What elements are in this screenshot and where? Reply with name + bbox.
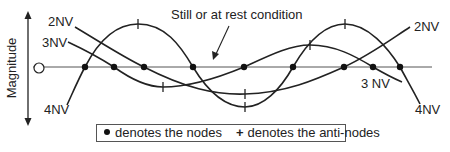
origin-circle [34,63,44,73]
node-dot [190,64,196,70]
legend-box: denotes the nodes+denotes the anti-nodes [96,124,346,142]
node-dot [241,64,247,70]
rest-condition-annotation: Still or at rest condition [171,7,303,22]
label-2nv-left: 2NV [48,14,74,29]
legend-nodes-text: denotes the nodes [115,125,222,140]
label-4nv-left: 4NV [44,102,70,117]
curve-2nv [75,27,410,94]
plus-icon: + [236,125,244,140]
magnitude-axis [25,11,32,126]
label-3nv-right: 3 NV [361,76,390,91]
node-dot [370,64,376,70]
node-dot-icon [104,129,110,135]
node-dot [141,64,147,70]
node-dot [397,64,403,70]
node-dot [290,64,296,70]
label-4nv-right: 4NV [415,102,441,117]
label-2nv-right: 2NV [414,19,440,34]
node-dot [341,64,347,70]
node-dot [111,64,117,70]
magnitude-label: Magnitude [4,38,19,99]
legend-antinodes-text: denotes the anti-nodes [248,125,380,140]
rest-condition-arrow [212,26,229,60]
label-3nv-left: 3NV [42,35,68,50]
curve-3nv [68,42,402,87]
node-dot [82,64,88,70]
